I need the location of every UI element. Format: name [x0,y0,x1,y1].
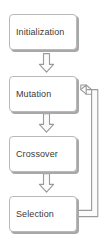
block-arrow-down-icon [38,53,55,73]
node-initialization-label: Initialization [10,27,76,37]
node-mutation[interactable]: Mutation [9,76,77,112]
node-initialization[interactable]: Initialization [9,14,77,50]
connector-initialization-to-mutation [38,53,55,73]
flowchart-canvas: Initialization Mutation Crossover Select… [0,0,107,248]
block-arrow-down-icon [38,113,55,133]
node-crossover-label: Crossover [10,149,76,159]
block-arrow-down-icon [38,173,55,193]
node-crossover[interactable]: Crossover [9,136,77,172]
connector-crossover-to-selection [38,173,55,193]
connector-mutation-to-crossover [38,113,55,133]
node-mutation-label: Mutation [10,89,76,99]
node-selection-label: Selection [10,209,76,219]
node-selection[interactable]: Selection [9,196,77,232]
